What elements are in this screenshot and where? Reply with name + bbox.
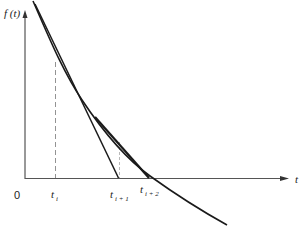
x-axis-arrow-icon — [280, 176, 289, 181]
svg-text:t: t — [140, 183, 144, 195]
svg-text:i + 2: i + 2 — [145, 190, 159, 198]
y-axis — [23, 10, 28, 179]
svg-text:i + 1: i + 1 — [115, 195, 129, 203]
x-axis-label: t — [295, 173, 299, 185]
svg-text:t: t — [110, 188, 114, 200]
tangent-line-1 — [35, 4, 119, 178]
origin-label: 0 — [14, 189, 20, 201]
svg-text:t: t — [51, 188, 55, 200]
tick-label-ti1: t i + 1 — [110, 188, 129, 203]
tick-label-ti2: t i + 2 — [140, 183, 159, 198]
y-axis-arrow-icon — [23, 10, 28, 18]
tick-label-ti: t i — [51, 188, 58, 203]
function-curve — [33, 1, 227, 225]
svg-text:i: i — [56, 195, 58, 203]
y-axis-label: f (t) — [4, 7, 21, 20]
newton-method-diagram: f (t) t 0 t i t i + 1 t i + 2 — [0, 0, 302, 232]
